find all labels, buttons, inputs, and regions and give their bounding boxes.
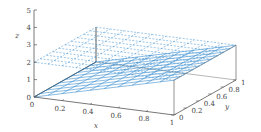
y-tick-label: 0.4	[204, 100, 216, 108]
z-tick-label: 3	[27, 41, 31, 49]
dashed-mesh-line	[90, 31, 230, 49]
x-tick-label: 0.4	[82, 108, 94, 116]
y-tick-label: 0.8	[229, 86, 240, 94]
x-tick-label: 1	[170, 119, 174, 127]
chart-3d-surface: 01234500.20.40.60.8100.20.40.60.81xyz	[0, 0, 261, 132]
z-tick-label: 1	[27, 76, 31, 84]
plot-canvas: 01234500.20.40.60.8100.20.40.60.81xyz	[0, 0, 261, 132]
x-axis-label: x	[94, 122, 98, 130]
y-axis-label: y	[224, 103, 230, 111]
x-tick-label: 0.6	[110, 112, 122, 120]
y-tick-label: 1	[241, 79, 245, 87]
dashed-mesh-line	[96, 27, 236, 45]
z-tick-label: 5	[27, 7, 31, 15]
x-tick-label: 0	[30, 101, 34, 109]
y-tick-label: 0.2	[191, 107, 202, 115]
x-tick-label: 0.8	[138, 115, 149, 123]
x-tick-label: 0.2	[54, 105, 65, 113]
dashed-mesh-line	[160, 43, 222, 78]
z-tick-label: 2	[27, 59, 31, 67]
z-tick-label: 4	[27, 24, 32, 32]
y-tick-label: 0.6	[216, 93, 228, 101]
y-tick-label: 0	[179, 114, 183, 122]
dashed-mesh-line	[132, 40, 194, 75]
z-axis-label: z	[14, 32, 19, 40]
